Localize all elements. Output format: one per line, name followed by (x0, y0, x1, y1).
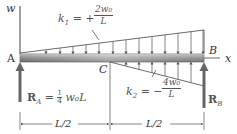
top-load (20, 30, 204, 53)
beam-diagram (0, 0, 237, 134)
dimension-lines (20, 112, 204, 130)
k1-leader (92, 30, 99, 40)
dimension-right-label: L/2 (146, 119, 162, 129)
point-A-label: A (7, 53, 15, 64)
point-B-label: B (209, 45, 217, 56)
reaction-A-label: RA = 14 w₀L (27, 90, 87, 106)
dimension-left-label: L/2 (55, 119, 71, 129)
k2-expression: k2 = − (126, 85, 163, 100)
w-axis-label: w (6, 3, 15, 14)
x-axis-label: x (225, 53, 231, 64)
k1-expression: k1 = + (58, 12, 95, 27)
k1-fraction: 2w₀L (94, 5, 113, 26)
bottom-load (110, 62, 204, 86)
k2-fraction: 4w₀L (162, 78, 181, 99)
point-C-label: C (99, 64, 107, 75)
reaction-B-label: RB (208, 93, 222, 108)
reaction-A-arrow (16, 62, 25, 102)
